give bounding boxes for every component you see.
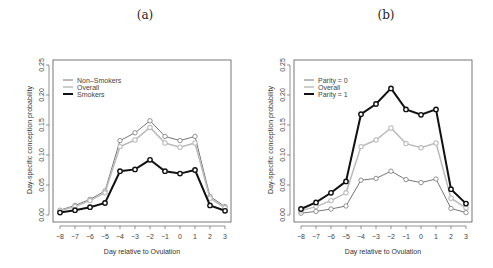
x-tick-label: 3 [464,233,468,240]
data-point [88,205,92,209]
data-point [344,179,348,183]
data-point [389,169,393,173]
x-tick-label: −1 [161,233,169,240]
x-axis: −8−7−6−5−4−3−2−10123Day relative to Ovul… [56,226,227,256]
y-tick-label: 0.20 [38,88,45,102]
data-point [329,198,333,202]
data-point [434,177,438,181]
data-point [419,180,423,184]
x-tick-label: −6 [86,233,94,240]
x-tick-label: −7 [71,233,79,240]
x-tick-label: −1 [402,233,410,240]
x-tick-label: −2 [387,233,395,240]
x-tick-label: −5 [342,233,350,240]
x-tick-label: −3 [131,233,139,240]
x-tick-label: 2 [208,233,212,240]
series-overall [58,125,227,213]
data-point [103,191,107,195]
data-point [404,141,408,145]
data-point [148,119,152,123]
data-point [374,176,378,180]
data-point [374,102,378,106]
y-axis: 0.000.050.100.150.200.25Day-specific con… [267,58,290,222]
x-tick-label: −4 [116,233,124,240]
data-point [208,203,212,207]
data-point [178,138,182,142]
data-point [103,201,107,205]
data-point [148,125,152,129]
data-point [449,206,453,210]
data-point [404,177,408,181]
series-overall [299,126,468,213]
data-point [344,204,348,208]
y-axis-label: Day-specific conception probability [267,86,275,194]
y-tick-label: 0.15 [38,118,45,132]
data-point [314,200,318,204]
x-axis: −8−7−6−5−4−3−2−10123Day relative to Ovul… [297,226,468,256]
x-axis-label: Day relative to Ovulation [345,248,421,256]
series-parity-0 [299,169,468,215]
data-point [193,134,197,138]
x-tick-label: −5 [101,233,109,240]
x-tick-label: 3 [223,233,227,240]
data-point [178,171,182,175]
y-tick-label: 0.05 [38,178,45,192]
x-tick-label: −4 [357,233,365,240]
y-tick-label: 0.05 [279,178,286,192]
data-point [163,134,167,138]
data-point [464,210,468,214]
y-axis-label: Day-specific conception probability [26,86,34,194]
x-tick-label: −2 [146,233,154,240]
x-tick-label: 0 [178,233,182,240]
x-axis-label: Day relative to Ovulation [104,248,180,256]
data-point [464,201,468,205]
data-point [118,169,122,173]
data-point [299,207,303,211]
data-point [178,145,182,149]
chart-canvas: 0.000.050.100.150.200.25Day-specific con… [0,0,493,268]
data-point [193,141,197,145]
y-tick-label: 0.10 [279,148,286,162]
legend: Non–SmokersOverallSmokers [63,77,122,98]
data-point [419,146,423,150]
data-point [419,113,423,117]
legend-label: Non–Smokers [77,77,122,84]
y-tick-label: 0.00 [279,208,286,222]
x-tick-label: 1 [193,233,197,240]
data-point [404,107,408,111]
data-point [389,86,393,90]
y-tick-label: 0.25 [38,58,45,72]
data-point [73,208,77,212]
legend: Parity = 0OverallParity = 1 [304,77,348,99]
data-point [133,131,137,135]
data-point [434,141,438,145]
data-point [133,138,137,142]
data-point [359,144,363,148]
data-point [88,198,92,202]
chart-panel-b: 0.000.050.100.150.200.25Day-specific con… [267,58,472,256]
data-point [359,112,363,116]
y-tick-label: 0.00 [38,208,45,222]
data-point [163,141,167,145]
data-point [389,126,393,130]
y-tick-label: 0.10 [38,148,45,162]
x-tick-label: −8 [56,233,64,240]
data-point [329,207,333,211]
y-tick-label: 0.25 [279,58,286,72]
x-tick-label: 0 [419,233,423,240]
x-tick-label: 1 [434,233,438,240]
legend-label: Overall [318,84,341,91]
data-point [223,209,227,213]
chart-panel-a: 0.000.050.100.150.200.25Day-specific con… [26,58,231,256]
legend-label: Smokers [77,91,105,98]
x-tick-label: −7 [312,233,320,240]
legend-label: Overall [77,84,100,91]
data-point [344,191,348,195]
data-point [374,138,378,142]
data-point [329,191,333,195]
y-tick-label: 0.20 [279,88,286,102]
x-tick-label: 2 [449,233,453,240]
data-point [58,210,62,214]
data-point [118,144,122,148]
x-tick-label: −6 [327,233,335,240]
